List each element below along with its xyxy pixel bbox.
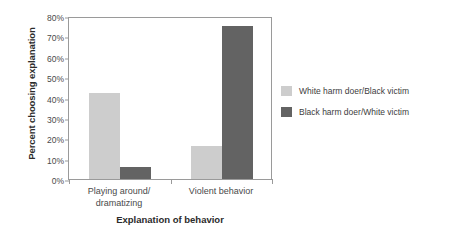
y-axis-tick-mark (65, 119, 69, 120)
y-axis-tick-mark (65, 160, 69, 161)
y-axis-tick-label: 60% (47, 54, 64, 64)
chart-legend: White harm doer/Black victim Black harm … (281, 80, 409, 122)
legend-swatch-icon (281, 107, 292, 117)
legend-item-black-harm-doer: Black harm doer/White victim (281, 101, 409, 122)
y-axis-tick-label: 0% (52, 176, 64, 186)
legend-item-label: Black harm doer/White victim (299, 107, 409, 117)
y-axis-tick-mark (65, 140, 69, 141)
y-axis-tick-mark (65, 18, 69, 19)
y-axis-tick-label: 20% (47, 135, 64, 145)
y-axis-tick-mark (65, 38, 69, 39)
bar-0-0 (89, 93, 120, 179)
y-axis-title: Percent choosing explanation (26, 9, 37, 179)
y-axis-tick-mark (65, 79, 69, 80)
y-axis-tick-label: 40% (47, 95, 64, 105)
bar-1-0 (191, 146, 222, 179)
category-label-1: Violent behavior (170, 186, 272, 198)
bar-0-1 (120, 167, 151, 179)
category-label-0: Playing around/ dramatizing (68, 186, 170, 209)
y-axis-tick-label: 30% (47, 115, 64, 125)
bar-1-1 (222, 26, 253, 179)
y-axis-tick-label: 80% (47, 13, 64, 23)
y-axis-tick-label: 70% (47, 33, 64, 43)
y-axis-tick-label: 50% (47, 74, 64, 84)
x-axis-title: Explanation of behavior (68, 214, 272, 225)
x-axis-tick-mark (272, 179, 273, 184)
legend-item-label: White harm doer/Black victim (299, 86, 409, 96)
bar-chart-figure: Percent choosing explanation 0%10%20%30%… (0, 0, 455, 235)
x-axis-tick-mark (171, 179, 172, 184)
y-axis-tick-label: 10% (47, 156, 64, 166)
legend-item-white-harm-doer: White harm doer/Black victim (281, 80, 409, 101)
y-axis-tick-mark (65, 99, 69, 100)
legend-swatch-icon (281, 86, 292, 96)
plot-area: 0%10%20%30%40%50%60%70%80% (68, 17, 272, 180)
x-axis-tick-mark (69, 179, 70, 184)
y-axis-tick-mark (65, 58, 69, 59)
